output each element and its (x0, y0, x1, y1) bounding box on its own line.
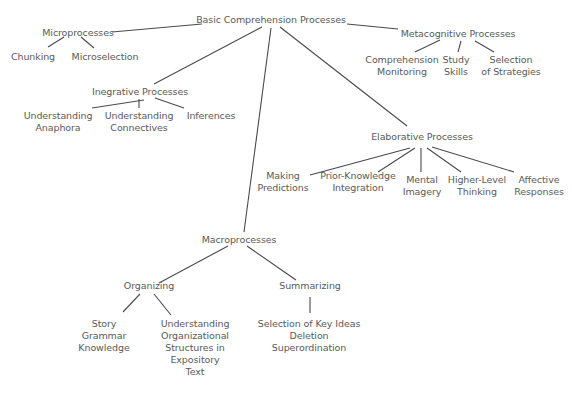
node-microselection: Microselection (72, 51, 139, 63)
node-summarizing-items: Selection of Key Ideas Deletion Superord… (258, 318, 360, 354)
node-chunking: Chunking (11, 51, 55, 63)
node-integrative-processes: Inegrative Processes (92, 86, 188, 98)
node-comprehension-monitoring: Comprehension Monitoring (365, 54, 438, 78)
node-summarizing: Summarizing (279, 280, 341, 292)
node-making-predictions: Making Predictions (257, 170, 308, 194)
node-selection-of-strategies: Selection of Strategies (481, 54, 540, 78)
node-prior-knowledge-integration: Prior-Knowledge Integration (320, 170, 395, 194)
node-study-skills: Study Skills (443, 54, 470, 78)
node-inferences: Inferences (187, 110, 236, 122)
node-metacognitive-processes: Metacognitive Processes (401, 28, 516, 40)
node-story-grammar-knowledge: Story Grammar Knowledge (78, 318, 129, 354)
node-higher-level-thinking: Higher-Level Thinking (448, 174, 506, 198)
node-basic-comprehension-processes: Basic Comprehension Processes (196, 14, 346, 26)
node-understanding-connectives: Understanding Connectives (105, 110, 174, 134)
node-organizing: Organizing (124, 280, 174, 292)
node-understanding-anaphora: Understanding Anaphora (24, 110, 93, 134)
concept-tree-diagram: Basic Comprehension Processes Microproce… (0, 0, 572, 393)
node-microprocesses: Microprocesses (42, 27, 113, 39)
node-elaborative-processes: Elaborative Processes (371, 131, 473, 143)
node-understanding-organizational-structures: Understanding Organizational Structures … (161, 318, 230, 378)
node-macroprocesses: Macroprocesses (202, 234, 277, 246)
node-affective-responses: Affective Responses (514, 174, 564, 198)
node-mental-imagery: Mental Imagery (403, 174, 442, 198)
